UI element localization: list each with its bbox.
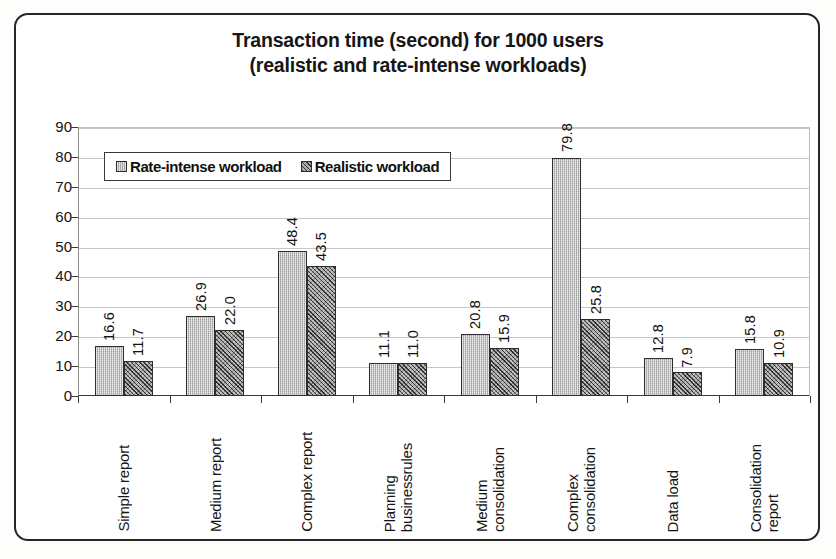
y-tick-label: 40 xyxy=(38,267,72,284)
y-tick-mark xyxy=(71,127,78,128)
bar-value-label: 10.9 xyxy=(771,329,787,358)
x-tick-label: Consolidation report xyxy=(719,406,811,532)
x-tick-label-text: Data load xyxy=(664,470,681,532)
x-tick-label: Medium report xyxy=(170,406,262,532)
bar-value-label: 11.0 xyxy=(405,330,421,358)
y-tick-label: 80 xyxy=(38,148,72,165)
bar[interactable] xyxy=(278,251,307,396)
bar[interactable] xyxy=(764,363,793,396)
x-tick-label-text: Medium report xyxy=(207,438,224,532)
x-tick-label: Complex consolidation xyxy=(536,406,628,532)
bar-value-label: 11.1 xyxy=(376,330,392,358)
x-tick-mark xyxy=(353,396,354,403)
y-tick-mark xyxy=(71,306,78,307)
bar[interactable] xyxy=(735,349,764,396)
x-tick-mark xyxy=(810,396,811,403)
y-tick-label: 50 xyxy=(38,238,72,255)
bar-value-label: 43.5 xyxy=(313,232,329,261)
bar-value-label: 12.8 xyxy=(650,324,666,353)
x-tick-label-text: Complex consolidation xyxy=(564,447,598,532)
x-tick-label: Planning businessrules xyxy=(353,406,445,532)
legend-label: Rate-intense workload xyxy=(130,158,282,175)
bar[interactable] xyxy=(398,363,427,396)
legend-label: Realistic workload xyxy=(315,158,440,175)
bar[interactable] xyxy=(186,316,215,396)
bar-value-label: 20.8 xyxy=(467,300,483,329)
x-tick-label: Medium consolidation xyxy=(444,406,536,532)
y-tick-mark xyxy=(71,157,78,158)
bar[interactable] xyxy=(581,319,610,396)
chart-title: Transaction time (second) for 1000 users… xyxy=(60,28,776,78)
x-tick-mark xyxy=(536,396,537,403)
bar[interactable] xyxy=(215,330,244,396)
bar-group: 20.815.9 xyxy=(444,127,536,396)
x-tick-label-text: Planning businessrules xyxy=(381,443,415,532)
bar-value-label: 11.7 xyxy=(130,328,146,356)
y-tick-label: 90 xyxy=(38,118,72,135)
y-tick-label: 20 xyxy=(38,327,72,344)
chart-legend: Rate-intense workloadRealistic workload xyxy=(104,152,451,181)
x-tick-label: Data load xyxy=(627,406,719,532)
y-tick-mark xyxy=(71,247,78,248)
bar[interactable] xyxy=(490,348,519,396)
bar-value-label: 79.8 xyxy=(559,123,575,152)
bar-group: 12.87.9 xyxy=(627,127,719,396)
x-axis: Simple reportMedium reportComplex report… xyxy=(78,406,810,534)
bar-value-label: 26.9 xyxy=(193,282,209,311)
x-tick-mark xyxy=(78,396,79,403)
x-tick-mark xyxy=(261,396,262,403)
y-axis: 0102030405060708090 xyxy=(36,127,72,396)
y-tick-mark xyxy=(71,276,78,277)
y-tick-label: 10 xyxy=(38,357,72,374)
legend-item[interactable]: Rate-intense workload xyxy=(116,158,282,175)
y-tick-label: 0 xyxy=(38,387,72,404)
y-tick-mark xyxy=(71,187,78,188)
bar[interactable] xyxy=(369,363,398,396)
bar[interactable] xyxy=(644,358,673,396)
y-tick-mark xyxy=(71,336,78,337)
x-tick-label-text: Medium consolidation xyxy=(473,447,507,532)
y-tick-label: 30 xyxy=(38,297,72,314)
y-tick-mark xyxy=(71,396,78,397)
x-tick-label-text: Consolidation report xyxy=(747,444,781,532)
bar-value-label: 15.9 xyxy=(496,314,512,343)
bar-value-label: 16.6 xyxy=(101,312,117,341)
bar[interactable] xyxy=(95,346,124,396)
bar[interactable] xyxy=(673,372,702,396)
y-tick-mark xyxy=(71,366,78,367)
x-tick-label-text: Complex report xyxy=(298,432,315,532)
legend-swatch-icon xyxy=(301,161,312,172)
x-tick-label: Complex report xyxy=(261,406,353,532)
bar-group: 79.825.8 xyxy=(536,127,628,396)
x-tick-label-text: Simple report xyxy=(115,445,132,532)
bar[interactable] xyxy=(552,158,581,397)
y-tick-label: 70 xyxy=(38,178,72,195)
y-tick-label: 60 xyxy=(38,208,72,225)
x-tick-mark xyxy=(170,396,171,403)
legend-item[interactable]: Realistic workload xyxy=(301,158,440,175)
bar-group: 15.810.9 xyxy=(719,127,811,396)
chart-screenshot: Transaction time (second) for 1000 users… xyxy=(0,0,836,559)
bar-value-label: 22.0 xyxy=(222,296,238,325)
bar[interactable] xyxy=(307,266,336,396)
bar-value-label: 15.8 xyxy=(742,315,758,344)
y-tick-mark xyxy=(71,217,78,218)
x-tick-label: Simple report xyxy=(78,406,170,532)
chart-title-line-1: Transaction time (second) for 1000 users xyxy=(60,28,776,53)
bar-value-label: 48.4 xyxy=(284,217,300,246)
bar[interactable] xyxy=(124,361,153,396)
chart-title-line-2: (realistic and rate-intense workloads) xyxy=(60,53,776,78)
x-tick-mark xyxy=(627,396,628,403)
bar-value-label: 25.8 xyxy=(588,285,604,314)
bar-value-label: 7.9 xyxy=(679,347,695,368)
x-tick-mark xyxy=(444,396,445,403)
legend-swatch-icon xyxy=(116,161,127,172)
bar[interactable] xyxy=(461,334,490,396)
x-tick-mark xyxy=(719,396,720,403)
